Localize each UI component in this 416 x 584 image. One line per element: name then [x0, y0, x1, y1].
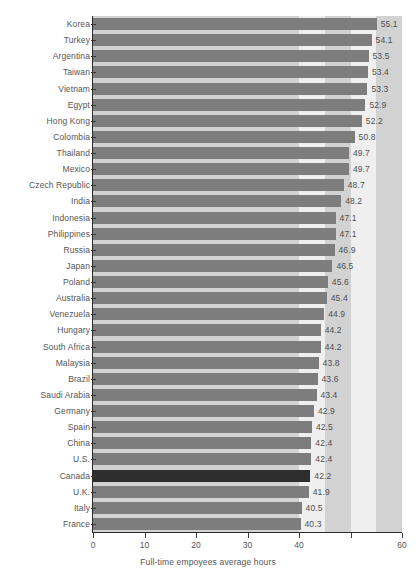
- x-axis-tick: [299, 533, 300, 538]
- x-axis-tick: [196, 533, 197, 538]
- y-axis-label: Turkey: [64, 35, 90, 45]
- y-axis-label: China: [67, 438, 90, 448]
- x-axis-tick-label: 20: [191, 540, 200, 550]
- y-axis-label: Germany: [54, 406, 90, 416]
- y-axis-label: Australia: [56, 293, 90, 303]
- y-axis-label: Indonesia: [52, 213, 90, 223]
- y-axis-label: U.K.: [73, 487, 90, 497]
- x-axis-tick: [402, 533, 403, 538]
- y-axis-label: Spain: [68, 422, 90, 432]
- y-axis-label: Mexico: [62, 164, 90, 174]
- x-axis-tick-label: 10: [140, 540, 149, 550]
- y-axis-label: France: [63, 519, 90, 529]
- y-axis-label: Malaysia: [56, 358, 90, 368]
- y-axis-label: Czech Republic: [29, 180, 90, 190]
- x-axis-tick-label: 0: [91, 540, 96, 550]
- x-axis-tick: [145, 533, 146, 538]
- x-axis-tick-label: 40: [294, 540, 303, 550]
- x-axis-tick: [248, 533, 249, 538]
- x-axis-tick: [351, 533, 352, 538]
- y-axis-label: Argentina: [53, 51, 90, 61]
- y-axis-label: Brazil: [68, 374, 90, 384]
- y-axis-labels: KoreaTurkeyArgentinaTaiwanVietnamEgyptHo…: [0, 16, 416, 532]
- y-axis-label: Saudi Arabia: [41, 390, 90, 400]
- x-axis-tick: [93, 533, 94, 538]
- y-axis-label: Colombia: [53, 132, 90, 142]
- y-axis-label: Egypt: [68, 100, 90, 110]
- y-axis-label: Japan: [66, 261, 90, 271]
- y-axis-label: Russia: [63, 245, 90, 255]
- y-axis-label: South Africa: [43, 342, 90, 352]
- x-axis-tick-label: 60: [397, 540, 406, 550]
- y-axis-label: Philippines: [48, 229, 90, 239]
- y-axis-label: Venezuela: [49, 309, 90, 319]
- y-axis-label: Thailand: [57, 148, 90, 158]
- y-axis-label: Taiwan: [63, 67, 90, 77]
- y-axis-label: Korea: [67, 19, 90, 29]
- y-axis-label: Hong Kong: [47, 116, 90, 126]
- y-axis-label: Canada: [60, 471, 90, 481]
- y-axis-label: Hungary: [57, 325, 90, 335]
- y-axis-line: [92, 16, 93, 533]
- bar-chart: 55.154.153.553.453.352.952.250.849.749.7…: [0, 0, 416, 584]
- x-axis-tick-label: 30: [243, 540, 252, 550]
- y-axis-label: Poland: [63, 277, 90, 287]
- y-axis-label: Vietnam: [58, 84, 90, 94]
- y-axis-label: India: [71, 196, 90, 206]
- x-axis-title: Full-time empoyees average hours: [0, 557, 416, 567]
- y-axis-label: U.S.: [73, 454, 90, 464]
- y-axis-label: Italy: [74, 503, 90, 513]
